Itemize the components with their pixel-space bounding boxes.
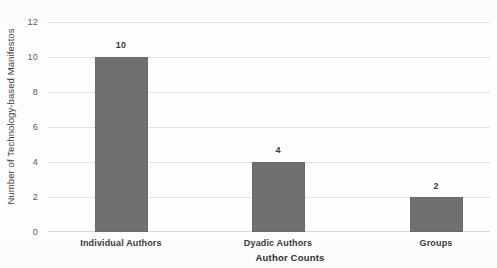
bar-value-label: 4: [275, 145, 280, 155]
bar-groups[interactable]: [410, 197, 463, 232]
y-tick-label: 4: [33, 157, 38, 167]
bar-value-label: 10: [116, 40, 126, 50]
gridline: [48, 22, 490, 23]
chart-figure: Number of Technology-based Manifestos 12…: [0, 0, 497, 268]
y-tick-label: 2: [33, 192, 38, 202]
bar-individual-authors[interactable]: [95, 57, 148, 232]
bar-value-label: 2: [433, 181, 438, 191]
y-tick-label: 0: [33, 227, 38, 237]
y-tick-label: 10: [28, 52, 38, 62]
y-tick-label: 12: [28, 17, 38, 27]
bar-dyadic-authors[interactable]: [252, 162, 305, 232]
y-axis-ticks: 12 10 8 6 4 2 0: [0, 0, 44, 268]
x-tick-label-dyadic-authors: Dyadic Authors: [244, 238, 312, 248]
y-tick-label: 8: [33, 87, 38, 97]
x-tick-label-individual-authors: Individual Authors: [80, 238, 161, 248]
x-tick-label-groups: Groups: [420, 238, 453, 248]
x-axis-title: Author Counts: [255, 252, 324, 263]
y-tick-label: 6: [33, 122, 38, 132]
plot-area: [48, 22, 490, 232]
